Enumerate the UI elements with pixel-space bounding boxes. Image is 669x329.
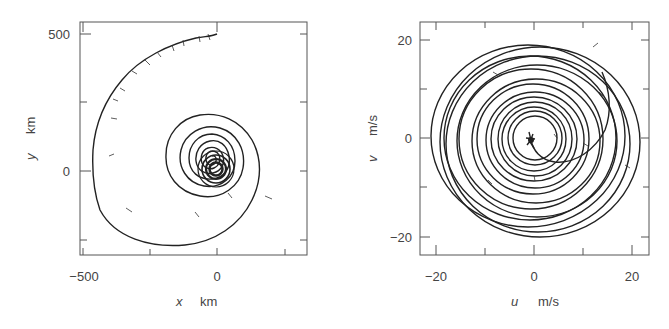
right-ytick-label-neg20: −20 — [390, 230, 412, 245]
svg-text:km: km — [23, 117, 38, 134]
right-ytick-label-zero: 0 — [405, 131, 412, 146]
svg-text:u: u — [511, 294, 518, 309]
svg-text:m/s: m/s — [538, 294, 559, 309]
right-y-axis-label: v m/s — [365, 115, 380, 162]
right-ytick-label-20: 20 — [398, 33, 412, 48]
left-ytick-label-500: 500 — [48, 27, 70, 42]
svg-text:y: y — [23, 152, 38, 161]
trajectory-chart: −500 0 500 0 x km y km — [23, 22, 307, 309]
svg-text:x: x — [175, 294, 183, 309]
left-x-ticks — [83, 22, 285, 255]
left-x-axis-label: x km — [175, 294, 217, 309]
left-ytick-label-zero: 0 — [63, 164, 70, 179]
hodograph-chart: −20 0 20 20 0 −20 u m/s v m/s — [365, 22, 649, 309]
trajectory-barbs — [109, 34, 272, 217]
svg-text:km: km — [200, 294, 217, 309]
right-x-axis-label: u m/s — [511, 294, 559, 309]
right-xtick-label-zero: 0 — [530, 269, 537, 284]
svg-text:v: v — [365, 154, 380, 162]
svg-text:m/s: m/s — [365, 115, 380, 136]
left-xtick-label-zero: 0 — [213, 269, 220, 284]
left-y-ticks — [80, 34, 307, 240]
trajectory-line — [93, 34, 260, 246]
right-xtick-label-neg20: −20 — [425, 269, 447, 284]
right-xtick-label-20: 20 — [625, 269, 639, 284]
left-plot-frame — [80, 22, 307, 255]
figure: −500 0 500 0 x km y km — [0, 0, 669, 329]
hodograph-loops — [431, 45, 640, 237]
left-xtick-label-neg500: −500 — [69, 269, 98, 284]
left-y-axis-label: y km — [23, 117, 38, 161]
